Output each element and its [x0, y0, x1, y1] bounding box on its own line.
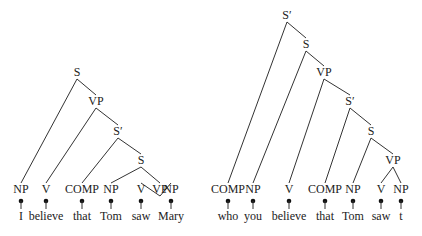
word-label: that — [316, 209, 335, 223]
phrase-node: S — [74, 65, 81, 79]
tree-edge — [46, 108, 96, 183]
word-label: Tom — [100, 209, 122, 223]
tree-edge — [393, 167, 401, 183]
word-label: who — [218, 209, 239, 223]
category-label: COMP — [65, 182, 99, 196]
tree-edge — [325, 108, 350, 183]
category-label: COMP — [308, 182, 342, 196]
word-label: that — [73, 209, 92, 223]
phrase-node: VP — [316, 65, 332, 79]
category-label: NP — [103, 182, 119, 196]
tree-edge — [111, 167, 141, 183]
tree-edge — [371, 138, 393, 154]
tree-edge — [96, 108, 118, 125]
tree-canvas: SVPS′SVPNPIVbelieveCOMPthatNPTomVsawNPMa… — [0, 0, 422, 236]
category-label: NP — [245, 182, 261, 196]
phrase-node: S — [368, 124, 375, 138]
word-label: I — [19, 209, 23, 223]
word-label: you — [244, 209, 262, 223]
tree-edge — [82, 138, 118, 183]
tree-edge — [287, 22, 306, 38]
word-label: saw — [132, 209, 151, 223]
word-label: believe — [272, 209, 307, 223]
category-label: NP — [345, 182, 361, 196]
word-label: t — [399, 209, 403, 223]
tree-edge — [253, 51, 306, 183]
tree-edge — [141, 167, 160, 183]
tree-edge — [289, 79, 324, 183]
phrase-node: S′ — [345, 94, 355, 108]
tree-edge — [21, 79, 77, 183]
phrase-node: S — [138, 153, 145, 167]
word-label: saw — [372, 209, 391, 223]
tree-edge — [381, 167, 393, 183]
category-label: NP — [163, 182, 179, 196]
category-label: COMP — [211, 182, 245, 196]
phrase-node: S — [303, 37, 310, 51]
tree-edge — [324, 79, 350, 95]
phrase-node: S′ — [113, 124, 123, 138]
tree-edge — [350, 108, 371, 125]
tree-edge — [306, 51, 324, 66]
tree-declarative: SVPS′SVPNPIVbelieveCOMPthatNPTomVsawNPMa… — [13, 65, 184, 223]
syntax-tree-diagram: SVPS′SVPNPIVbelieveCOMPthatNPTomVsawNPMa… — [0, 0, 422, 236]
tree-wh-question: S′SVPS′SVPCOMPwhoNPyouVbelieveCOMPthatNP… — [211, 8, 409, 223]
tree-edge — [118, 138, 141, 154]
phrase-node: S′ — [282, 8, 292, 22]
word-label: Tom — [342, 209, 364, 223]
tree-edge — [353, 138, 371, 183]
tree-edge — [228, 22, 287, 183]
tree-edge — [77, 79, 96, 95]
category-label: V — [377, 182, 386, 196]
category-label: V — [42, 182, 51, 196]
word-label: Mary — [158, 209, 184, 223]
phrase-node: VP — [88, 94, 104, 108]
word-label: believe — [29, 209, 64, 223]
category-label: V — [285, 182, 294, 196]
phrase-node: VP — [385, 153, 401, 167]
category-label: NP — [393, 182, 409, 196]
category-label: NP — [13, 182, 29, 196]
category-label: V — [137, 182, 146, 196]
